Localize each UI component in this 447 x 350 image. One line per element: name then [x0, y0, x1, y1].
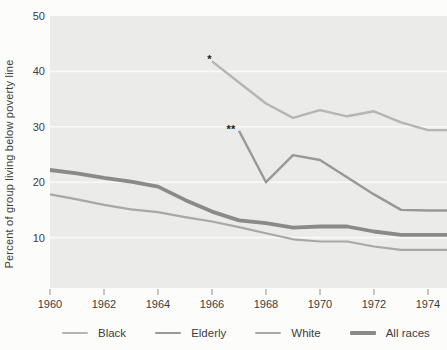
legend-item-all-races: All races [350, 327, 430, 339]
legend-item-elderly: Elderly [155, 327, 226, 339]
x-tick-label-1970: 1970 [308, 298, 332, 310]
legend-swatch-all-races [350, 331, 376, 335]
y-tick-label-10: 10 [33, 232, 45, 244]
y-tick-label-50: 50 [33, 10, 45, 22]
legend-label-all-races: All races [386, 327, 430, 339]
y-tick-label-20: 20 [33, 176, 45, 188]
x-tick-label-1966: 1966 [200, 298, 224, 310]
x-tick-label-1968: 1968 [254, 298, 278, 310]
legend-label-elderly: Elderly [191, 327, 226, 339]
annotation-footnote-marker-1: * [207, 53, 212, 65]
legend-item-black: Black [62, 327, 126, 339]
legend-swatch-elderly [155, 332, 181, 334]
legend-label-black: Black [98, 327, 126, 339]
x-tick-label-1962: 1962 [92, 298, 116, 310]
x-tick-label-1974: 1974 [416, 298, 440, 310]
poverty-rate-line-chart: 1960196219641966196819701972197410203040… [0, 0, 447, 350]
legend-item-white: White [255, 327, 320, 339]
legend-label-white: White [291, 327, 320, 339]
x-tick-label-1972: 1972 [362, 298, 386, 310]
y-axis-title: Percent of group living below poverty li… [3, 60, 15, 269]
y-tick-label-30: 30 [33, 121, 45, 133]
legend-swatch-white [255, 332, 281, 334]
y-tick-label-40: 40 [33, 65, 45, 77]
legend-swatch-black [62, 332, 88, 334]
x-tick-label-1964: 1964 [146, 298, 170, 310]
annotation-footnote-marker-2: ** [227, 123, 236, 135]
x-tick-label-1960: 1960 [38, 298, 62, 310]
chart-legend: BlackElderlyWhiteAll races [62, 327, 430, 339]
chart-canvas: 1960196219641966196819701972197410203040… [0, 0, 447, 350]
